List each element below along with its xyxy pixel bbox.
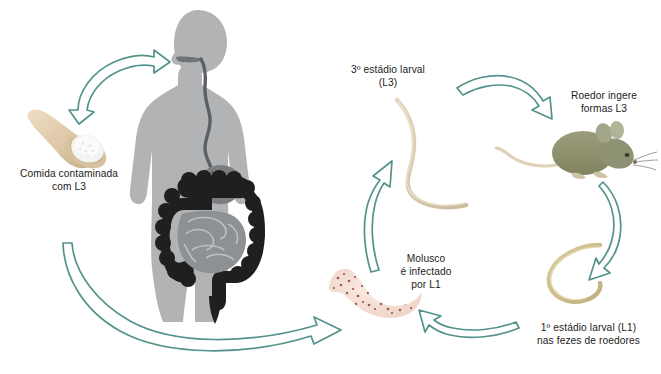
arrow-l3-to-rodent (457, 76, 552, 119)
arrow-rodent-to-l1 (589, 182, 621, 280)
label-rodent-ingests-l3: Roedor ingere formas L3 (552, 90, 656, 116)
label-larval-stage-l1-feces: 1º estádio larval (L1) nas fezes de roed… (516, 322, 661, 348)
larval-worm-l3 (397, 100, 466, 207)
label-larval-stage-l3: 3º estádio larval (L3) (330, 64, 446, 90)
label-mollusc-infected-l1: Molusco é infectado por L1 (379, 253, 473, 291)
arrow-l1-to-mollusc (419, 310, 519, 337)
small-intestine (178, 211, 247, 273)
wooden-spoon-with-powder (28, 109, 113, 175)
arrow-group (63, 50, 621, 351)
rodent-mouse (496, 120, 658, 179)
label-contaminated-food: Comida contaminada com L3 (2, 168, 136, 194)
life-cycle-diagram: Comida contaminada com L3 3º estádio lar… (0, 0, 661, 374)
